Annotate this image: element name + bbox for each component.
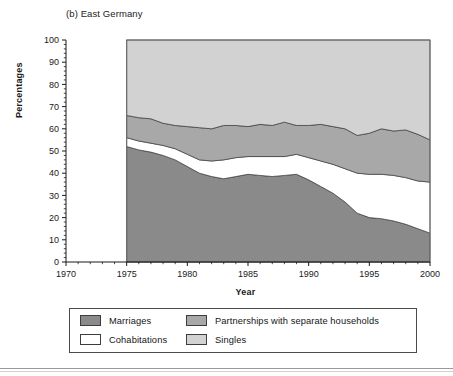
y-tick-label: 10 bbox=[49, 235, 59, 245]
figure-panel-east-germany: (b) East Germany Percentages 01020304050… bbox=[0, 0, 453, 376]
y-tick-label: 50 bbox=[49, 146, 59, 156]
y-tick-label: 70 bbox=[49, 102, 59, 112]
y-tick-label: 40 bbox=[49, 168, 59, 178]
x-axis-label: Year bbox=[236, 287, 256, 297]
y-tick-label: 30 bbox=[49, 191, 59, 201]
legend-item-cohabitations[interactable]: Cohabitations bbox=[80, 334, 167, 345]
legend-label-cohabitations: Cohabitations bbox=[109, 335, 167, 345]
x-tick-label: 1985 bbox=[238, 269, 258, 279]
x-tick-label: 2000 bbox=[420, 269, 440, 279]
legend-swatch-partnerships bbox=[186, 315, 207, 326]
y-tick-label: 90 bbox=[49, 57, 59, 67]
legend-item-singles[interactable]: Singles bbox=[186, 334, 246, 345]
legend-swatch-singles bbox=[186, 334, 207, 345]
x-tick-label: 1975 bbox=[117, 269, 137, 279]
x-tick-label: 1980 bbox=[177, 269, 197, 279]
x-tick-label: 1970 bbox=[56, 269, 76, 279]
x-tick-label: 1995 bbox=[359, 269, 379, 279]
legend-swatch-cohabitations bbox=[80, 334, 101, 345]
legend-item-marriages[interactable]: Marriages bbox=[80, 315, 151, 326]
legend-label-partnerships: Partnerships with separate households bbox=[215, 316, 379, 326]
x-axis-label-wrap: Year bbox=[0, 287, 453, 297]
plot-areas bbox=[127, 40, 430, 262]
y-tick-label: 80 bbox=[49, 80, 59, 90]
legend-item-partnerships[interactable]: Partnerships with separate households bbox=[186, 315, 379, 326]
chart-legend: Marriages Partnerships with separate hou… bbox=[69, 308, 417, 353]
y-tick-label: 60 bbox=[49, 124, 59, 134]
legend-label-singles: Singles bbox=[215, 335, 246, 345]
x-tick-label: 1990 bbox=[299, 269, 319, 279]
y-tick-label: 0 bbox=[54, 257, 59, 267]
footer-divider bbox=[0, 368, 453, 369]
legend-swatch-marriages bbox=[80, 315, 101, 326]
footer-divider-secondary bbox=[0, 371, 453, 372]
legend-label-marriages: Marriages bbox=[109, 316, 151, 326]
y-tick-label: 20 bbox=[49, 213, 59, 223]
y-tick-label: 100 bbox=[44, 35, 59, 45]
